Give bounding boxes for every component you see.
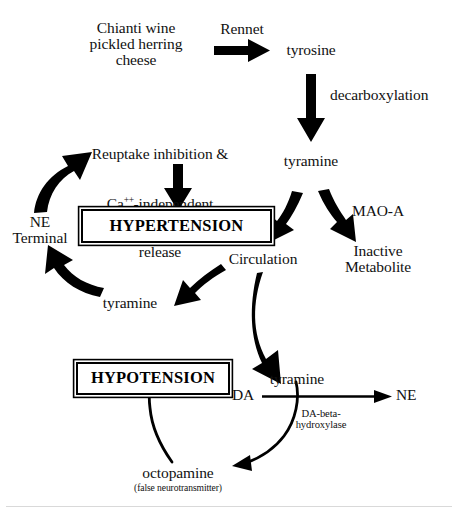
node-ne: NE	[396, 387, 416, 403]
node-tyramine-terminal: tyramine	[103, 295, 157, 311]
node-tyramine-gut: tyramine	[284, 153, 338, 169]
arrow-da-to-ne	[262, 390, 392, 403]
node-hypertension-label: HYPERTENSION	[110, 218, 244, 235]
node-hypertension-box: HYPERTENSION	[81, 209, 272, 243]
reuptake-line-3: release	[92, 244, 229, 260]
arrow-rennet	[214, 39, 270, 62]
node-tyrosine: tyrosine	[286, 42, 335, 58]
node-tyramine-lower: tyramine	[270, 371, 324, 387]
pathway-diagram: Chianti wine pickled herring cheese Renn…	[0, 0, 456, 510]
node-inactive-metabolite: Inactive Metabolite	[345, 243, 411, 275]
scan-artifact-line	[6, 506, 452, 507]
arrow-ne-terminal-to-reuptake	[34, 152, 92, 213]
reuptake-ca-superscript: ++	[124, 194, 134, 205]
node-foods: Chianti wine pickled herring cheese	[90, 20, 183, 68]
edge-label-da-beta-hydroxylase: DA-beta- hydroxylase	[296, 408, 347, 430]
edge-label-decarboxylation: decarboxylation	[330, 87, 428, 103]
node-circulation: Circulation	[229, 251, 298, 267]
reuptake-line-1: Reuptake inhibition &	[92, 146, 229, 162]
arrow-decarboxylation	[297, 74, 325, 142]
node-hypotension-label: HYPOTENSION	[91, 370, 215, 387]
node-reuptake-inhibition: Reuptake inhibition & Ca++-independent r…	[92, 114, 229, 292]
node-da: DA	[232, 387, 254, 403]
node-octopamine: octopamine	[142, 465, 213, 481]
arrow-tyramine-to-inactive-metabolite	[318, 189, 356, 242]
node-octopamine-note: (false neurotransmitter)	[134, 483, 222, 493]
edge-label-rennet: Rennet	[220, 21, 263, 37]
node-hypotension-box: HYPOTENSION	[76, 362, 230, 395]
arrow-circulation-to-tyramine-lower	[252, 272, 281, 384]
arrow-tyramine-to-circulation	[268, 191, 303, 243]
node-ne-terminal: NE Terminal	[13, 214, 68, 246]
edge-label-mao-a: MAO-A	[352, 203, 404, 219]
